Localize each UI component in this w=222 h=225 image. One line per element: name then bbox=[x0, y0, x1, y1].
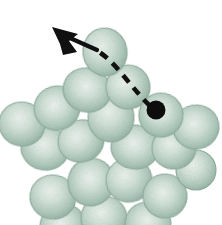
figure-canvas: Micrograph-style illustration of a packe… bbox=[0, 0, 222, 225]
cell-cluster-illustration bbox=[0, 0, 222, 225]
start-position-dot bbox=[147, 101, 166, 120]
